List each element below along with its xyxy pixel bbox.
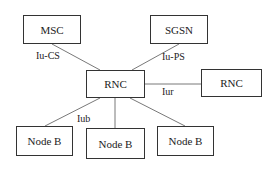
nodeb-1-label: Node B	[28, 135, 62, 147]
nodeb-1-node: Node B	[16, 126, 73, 156]
msc-label: MSC	[40, 24, 63, 36]
iu-cs-label: Iu-CS	[36, 50, 60, 61]
iur-label: Iur	[162, 86, 174, 97]
nodeb-2-label: Node B	[99, 138, 133, 150]
nodeb-3-label: Node B	[169, 135, 203, 147]
msc-node: MSC	[23, 15, 81, 44]
sgsn-node: SGSN	[150, 15, 208, 44]
nodeb-3-node: Node B	[157, 126, 214, 156]
nodeb-2-node: Node B	[86, 128, 145, 159]
rnc-peer-label: RNC	[220, 77, 243, 89]
iu-ps-label: Iu-PS	[162, 51, 185, 62]
link-rnc-nodeb1	[45, 98, 100, 126]
iub-label: Iub	[77, 113, 90, 124]
rnc-main-node: RNC	[86, 70, 145, 98]
rnc-peer-node: RNC	[201, 69, 262, 97]
link-rnc-nodeb3	[130, 98, 185, 126]
sgsn-label: SGSN	[165, 24, 193, 36]
rnc-main-label: RNC	[104, 78, 127, 90]
